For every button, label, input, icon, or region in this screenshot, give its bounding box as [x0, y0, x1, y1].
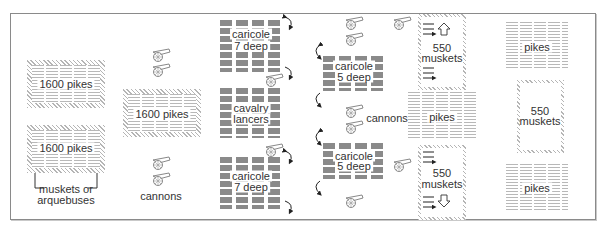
cannon-icon	[392, 16, 412, 30]
wheel-arrow-icon	[284, 200, 296, 214]
cannons-label-left: cannons	[138, 191, 184, 202]
fire-arrows-icon	[422, 195, 436, 211]
cannon-icon	[344, 16, 364, 30]
cannon-icon	[151, 156, 171, 170]
fire-arrows-icon	[422, 66, 436, 82]
caricole-left-top-line1: caricole	[230, 29, 272, 40]
wheel-arrow-icon	[284, 150, 296, 164]
pike-block-top-label: 1600 pikes	[37, 79, 94, 90]
wheel-arrow-icon	[312, 44, 324, 60]
cavalry-lancers-line2: lancers	[231, 114, 270, 125]
cannon-icon	[344, 104, 364, 118]
cannon-icon	[264, 143, 284, 157]
caricole-right-top-line2: 5 deep	[335, 72, 373, 83]
cannons-label-right: cannons	[364, 113, 410, 124]
wheel-arrow-icon	[284, 66, 296, 80]
cannon-icon	[392, 158, 412, 172]
caricole-left-bottom-line2: 7 deep	[232, 182, 270, 193]
pike-block-bottom-label: 1600 pikes	[37, 143, 94, 154]
middle-pikes-label: pikes	[427, 112, 457, 123]
wheel-arrow-icon	[312, 180, 324, 196]
cannon-icon	[344, 120, 364, 134]
caricole-left-top-line2: 7 deep	[232, 41, 270, 52]
wheel-arrow-icon	[284, 16, 296, 30]
wheel-arrow-icon	[312, 130, 324, 146]
cannon-icon	[151, 48, 171, 62]
far-pikes-top-label: pikes	[522, 42, 552, 53]
far-pikes-bottom-label: pikes	[522, 183, 552, 194]
cannon-icon	[151, 63, 171, 77]
fire-arrows-icon	[422, 22, 436, 38]
far-musket-box-line2: muskets	[518, 116, 563, 127]
wheel-arrow-icon	[312, 92, 324, 108]
arrow-down-icon	[437, 194, 451, 208]
cannon-icon	[151, 172, 171, 186]
center-pike-block-label: 1600 pikes	[133, 109, 190, 120]
cannon-icon	[344, 194, 364, 208]
arquebuses-label: arquebuses	[35, 195, 97, 206]
musket-box-top-line2: muskets	[420, 53, 465, 64]
caricole-right-bottom-line2: 5 deep	[335, 161, 373, 172]
cannon-icon	[264, 73, 284, 87]
cannon-icon	[344, 32, 364, 46]
arrow-up-icon	[437, 22, 451, 36]
fire-arrows-icon	[422, 150, 436, 166]
musket-box-bottom-line2: muskets	[420, 179, 465, 190]
